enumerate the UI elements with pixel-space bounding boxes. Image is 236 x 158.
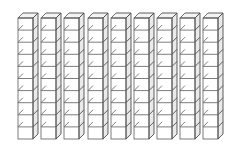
rods-group: [18, 13, 223, 139]
tens-rod-4[interactable]: [88, 13, 108, 139]
tens-rod-7[interactable]: [157, 13, 177, 139]
tens-rod-1[interactable]: [18, 13, 38, 139]
base-ten-blocks-canvas: [0, 0, 236, 158]
tens-rod-5[interactable]: [111, 13, 131, 139]
tens-rod-2[interactable]: [41, 13, 61, 139]
base-ten-blocks-figure: [0, 0, 236, 158]
tens-rod-9[interactable]: [203, 13, 223, 139]
tens-rod-3[interactable]: [64, 13, 84, 139]
tens-rod-6[interactable]: [134, 13, 154, 139]
tens-rod-8[interactable]: [180, 13, 200, 139]
